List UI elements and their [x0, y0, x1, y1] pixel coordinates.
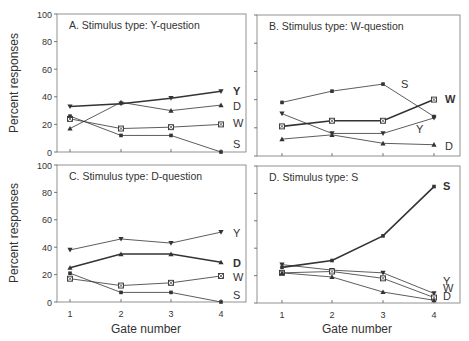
panel-title: C. Stimulus type: D-question — [69, 170, 202, 182]
square-marker — [381, 82, 385, 86]
square-marker — [219, 300, 223, 304]
y-tick-label: 80 — [42, 188, 52, 198]
series-line — [282, 273, 434, 300]
square-marker — [119, 291, 123, 295]
series-line — [70, 254, 221, 268]
triangle-down-marker — [168, 241, 173, 246]
series-label: Y — [416, 123, 424, 135]
x-tick-label: 3 — [168, 309, 173, 319]
square-marker — [119, 134, 123, 138]
series-line — [282, 135, 434, 145]
panels: 020406080100A. Stimulus type: Y-question… — [37, 10, 460, 321]
square-marker — [280, 101, 284, 105]
y-tick-label: 20 — [42, 270, 52, 280]
chart-canvas: 020406080100A. Stimulus type: Y-question… — [0, 0, 469, 341]
x-axis-label-right: Gate number — [322, 322, 392, 336]
series-y — [67, 230, 223, 252]
y-tick-label: 20 — [42, 120, 52, 130]
series-label: W — [233, 271, 244, 283]
panel-d: 1234D. Stimulus type: SSYWD — [254, 166, 460, 320]
square-marker — [432, 185, 436, 189]
panel-frame — [57, 14, 246, 152]
panel-frame — [57, 165, 246, 302]
series-label: S — [233, 289, 240, 301]
series-label: W — [233, 117, 244, 129]
series-line — [70, 91, 221, 106]
y-tick-label: 80 — [42, 37, 52, 47]
square-marker — [68, 114, 72, 118]
series-label: D — [233, 257, 241, 269]
series-line — [70, 276, 221, 286]
series-label: Y — [233, 227, 241, 239]
series-label: S — [233, 138, 240, 150]
y-tick-label: 40 — [42, 243, 52, 253]
series-label: Y — [233, 85, 241, 97]
y-tick-label: 60 — [42, 65, 52, 75]
panel-frame — [257, 166, 460, 303]
x-tick-label: 3 — [380, 310, 385, 320]
panel-c: 0204060801001234C. Stimulus type: D-ques… — [37, 161, 246, 320]
y-tick-label: 0 — [47, 148, 52, 158]
y-axis-label-bottom: Percent responses — [7, 183, 21, 283]
panel-frame — [257, 15, 460, 156]
series-line — [282, 187, 434, 268]
series-label: D — [443, 290, 451, 302]
series-s — [68, 114, 223, 153]
y-tick-label: 100 — [37, 161, 52, 171]
series-y — [279, 263, 436, 296]
x-tick-label: 2 — [118, 309, 123, 319]
series-line — [70, 119, 221, 129]
panel-title: B. Stimulus type: W-question — [269, 20, 404, 32]
series-label: D — [445, 140, 453, 152]
series-label: S — [401, 78, 408, 90]
square-marker — [219, 150, 223, 154]
y-tick-label: 0 — [47, 298, 52, 308]
series-label: D — [233, 100, 241, 112]
series-d — [67, 251, 223, 269]
square-marker — [68, 271, 72, 275]
x-tick-label: 4 — [431, 310, 436, 320]
square-marker — [330, 259, 334, 263]
series-line — [282, 84, 434, 116]
panel-title: A. Stimulus type: Y-question — [69, 19, 200, 31]
y-tick-label: 60 — [42, 215, 52, 225]
triangle-up-marker — [218, 102, 223, 107]
series-line — [70, 116, 221, 152]
x-tick-label: 4 — [218, 309, 223, 319]
series-line — [70, 232, 221, 250]
series-d — [279, 132, 436, 147]
square-marker — [330, 89, 334, 93]
x-tick-label: 2 — [329, 310, 334, 320]
triangle-up-marker — [67, 126, 72, 131]
panel-title: D. Stimulus type: S — [269, 171, 358, 183]
x-axis-label-left: Gate number — [111, 322, 181, 336]
square-marker — [169, 134, 173, 138]
square-marker — [169, 291, 173, 295]
triangle-down-marker — [279, 112, 284, 117]
x-tick-label: 1 — [279, 310, 284, 320]
series-s — [280, 185, 436, 269]
x-tick-label: 1 — [67, 309, 72, 319]
y-tick-label: 40 — [42, 92, 52, 102]
y-tick-label: 100 — [37, 10, 52, 20]
series-label: S — [443, 180, 450, 192]
y-axis-label-top: Percent responses — [7, 33, 21, 133]
series-line — [70, 273, 221, 302]
series-s — [68, 271, 223, 303]
series-label: W — [445, 93, 456, 105]
chart-figure: 020406080100A. Stimulus type: Y-question… — [0, 0, 469, 341]
square-marker — [381, 234, 385, 238]
panel-b: B. Stimulus type: W-questionSWYD — [254, 15, 460, 156]
series-d — [67, 100, 223, 131]
series-s — [280, 82, 436, 118]
panel-a: 020406080100A. Stimulus type: Y-question… — [37, 10, 246, 158]
triangle-down-marker — [67, 248, 72, 253]
